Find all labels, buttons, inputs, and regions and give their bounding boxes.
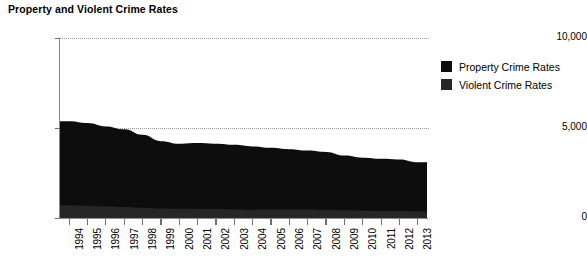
x-tick-mark	[69, 219, 70, 225]
legend-item[interactable]: Violent Crime Rates	[441, 76, 560, 93]
x-tick-mark	[215, 219, 216, 225]
x-tick-mark	[87, 219, 88, 225]
x-tick-label: 2010	[367, 228, 378, 250]
x-tick-mark	[270, 219, 271, 225]
legend-swatch	[441, 79, 452, 90]
x-tick-label: 2003	[239, 228, 250, 250]
x-tick-label: 2013	[422, 228, 433, 250]
x-tick-label: 1999	[165, 228, 176, 250]
y-tick-label: 0	[536, 211, 587, 222]
x-tick-label: 2012	[404, 228, 415, 250]
x-tick-label: 2004	[257, 228, 268, 250]
x-tick-mark	[105, 219, 106, 225]
x-tick-label: 2007	[312, 228, 323, 250]
chart-title: Property and Violent Crime Rates	[8, 3, 178, 15]
y-tick-label: 10,000	[536, 31, 587, 42]
x-tick-label: 1998	[147, 228, 158, 250]
x-tick-mark	[289, 219, 290, 225]
x-tick-label: 2005	[276, 228, 287, 250]
x-tick-mark	[362, 219, 363, 225]
x-tick-label: 1995	[92, 228, 103, 250]
x-tick-mark	[234, 219, 235, 225]
x-tick-label: 1994	[74, 228, 85, 250]
x-tick-label: 2002	[220, 228, 231, 250]
legend-swatch	[441, 61, 452, 72]
x-tick-label: 2006	[294, 228, 305, 250]
x-tick-mark	[417, 219, 418, 225]
area-series-svg	[60, 38, 427, 218]
x-tick-mark	[124, 219, 125, 225]
plot-area	[60, 38, 427, 218]
x-tick-label: 2009	[349, 228, 360, 250]
x-tick-mark	[179, 219, 180, 225]
x-tick-label: 2011	[386, 228, 397, 249]
y-tick-label: 5,000	[536, 121, 587, 132]
chart-legend: Property Crime RatesViolent Crime Rates	[441, 58, 560, 94]
x-tick-label: 2000	[184, 228, 195, 250]
x-tick-mark	[252, 219, 253, 225]
crime-rates-area-chart: Property and Violent Crime Rates 05,0001…	[0, 0, 587, 262]
x-tick-mark	[142, 219, 143, 225]
x-tick-mark	[160, 219, 161, 225]
legend-label: Violent Crime Rates	[459, 79, 552, 91]
x-tick-mark	[325, 219, 326, 225]
x-tick-label: 2008	[331, 228, 342, 250]
series-property-crime-rates-area	[60, 121, 427, 218]
x-tick-mark	[307, 219, 308, 225]
x-tick-mark	[399, 219, 400, 225]
x-tick-mark	[197, 219, 198, 225]
x-tick-mark	[344, 219, 345, 225]
x-tick-label: 1997	[129, 228, 140, 250]
legend-item[interactable]: Property Crime Rates	[441, 58, 560, 75]
x-tick-label: 2001	[202, 228, 213, 250]
x-axis-line	[59, 218, 428, 219]
x-tick-label: 1996	[110, 228, 121, 250]
legend-label: Property Crime Rates	[459, 61, 560, 73]
x-tick-mark	[381, 219, 382, 225]
